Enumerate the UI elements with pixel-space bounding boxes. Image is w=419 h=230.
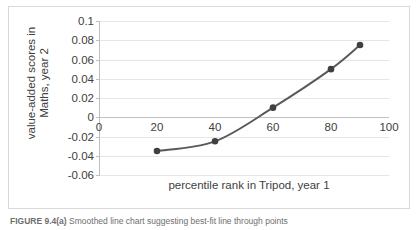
y-axis-tick <box>96 137 100 138</box>
gridline <box>99 175 389 176</box>
figure-root: value-added scores in Maths, year 2 perc… <box>0 0 419 230</box>
y-axis-tick <box>96 117 100 118</box>
y-axis-tick <box>96 60 100 61</box>
data-series-line <box>99 21 389 175</box>
caption-text: Smoothed line chart suggesting best-fit … <box>69 216 288 226</box>
data-point-marker <box>357 42 364 49</box>
data-point-marker <box>212 138 219 145</box>
data-point-marker <box>270 104 277 111</box>
y-tick-label: 0.02 <box>72 92 94 104</box>
figure-caption: FIGURE 9.4(a) Smoothed line chart sugges… <box>10 216 410 226</box>
caption-label: FIGURE 9.4(a) <box>10 216 67 226</box>
y-tick-label: 0 <box>88 111 94 123</box>
y-axis-tick <box>96 175 100 176</box>
chart-frame: value-added scores in Maths, year 2 perc… <box>8 6 410 209</box>
y-tick-label: -0.06 <box>68 169 94 181</box>
y-tick-label: 0.08 <box>72 34 94 46</box>
y-tick-label: 0.04 <box>72 73 94 85</box>
y-axis-tick <box>96 40 100 41</box>
y-axis-title: value-added scores in Maths, year 2 <box>18 3 58 163</box>
series-markers <box>154 42 364 154</box>
y-axis-tick <box>96 156 100 157</box>
plot-area: 0.10.080.060.040.020-0.02-0.04-0.06 0204… <box>99 21 389 175</box>
y-axis-tick <box>96 98 100 99</box>
y-tick-label: 0.06 <box>72 54 94 66</box>
data-point-marker <box>328 66 335 73</box>
y-tick-label: -0.04 <box>68 150 94 162</box>
data-point-marker <box>154 148 161 155</box>
series-path <box>157 45 360 151</box>
y-tick-label: 0.1 <box>78 15 94 27</box>
y-axis-tick <box>96 79 100 80</box>
y-tick-label: -0.02 <box>68 131 94 143</box>
y-axis-tick <box>96 21 100 22</box>
x-axis-title: percentile rank in Tripod, year 1 <box>99 179 399 191</box>
